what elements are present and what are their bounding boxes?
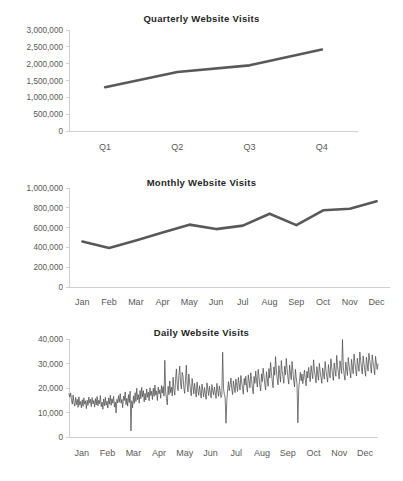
x-axis-tick-label: Jan	[75, 297, 90, 307]
x-axis-tick-label: Apr	[152, 448, 166, 458]
y-axis-tick-label: 0	[58, 433, 63, 442]
chart-monthly-website-visits: Monthly Website Visits 1,000,000800,0006…	[0, 163, 403, 320]
x-axis-tick-label: Jul	[237, 297, 249, 307]
x-axis-tick-label: Dec	[369, 297, 386, 307]
x-axis-tick-label: Jun	[203, 448, 218, 458]
x-axis-tick-label: Jul	[231, 448, 243, 458]
data-series-line	[105, 50, 322, 88]
x-axis-tick-label: Q3	[244, 142, 256, 152]
y-axis-tick-label: 2,500,000	[27, 43, 64, 52]
y-axis-tick-label: 30,000	[38, 360, 63, 369]
x-axis-tick-label: May	[181, 297, 199, 307]
x-axis-tick-label: Oct	[307, 448, 322, 458]
x-axis-tick-label: Aug	[262, 297, 278, 307]
x-axis-tick-label: Mar	[126, 448, 142, 458]
x-axis-tick-label: Q2	[171, 142, 183, 152]
data-series-line	[69, 339, 378, 430]
x-axis-tick-label: Feb	[100, 448, 116, 458]
y-axis-tick-label: 0	[58, 283, 63, 292]
x-axis-tick-label: Sep	[280, 448, 296, 458]
x-axis-tick-label: Q4	[316, 142, 328, 152]
y-axis-tick-label: 2,000,000	[27, 60, 64, 69]
y-axis-tick-label: 3,000,000	[27, 26, 64, 35]
x-axis-tick-label: Jan	[75, 448, 90, 458]
y-axis-tick-label: 1,500,000	[27, 77, 64, 86]
x-axis-tick-label: Apr	[156, 297, 170, 307]
y-axis-tick-label: 200,000	[33, 263, 63, 272]
data-series-line	[82, 201, 376, 248]
x-axis-tick-label: Q1	[99, 142, 111, 152]
x-axis-tick-label: Nov	[342, 297, 359, 307]
x-axis-tick-label: Jun	[209, 297, 224, 307]
chart-monthly-plot: 1,000,000800,000600,000400,000200,0000Ja…	[0, 163, 403, 320]
charts-sheet: Quarterly Website Visits 3,000,0002,500,…	[0, 0, 403, 481]
chart-daily-website-visits: Daily Website Visits 40,00030,00020,0001…	[0, 320, 403, 481]
y-axis-tick-label: 40,000	[38, 335, 63, 344]
x-axis-tick-label: Sep	[288, 297, 304, 307]
chart-quarterly-plot: 3,000,0002,500,0002,000,0001,500,0001,00…	[0, 0, 403, 163]
x-axis-tick-label: Nov	[331, 448, 348, 458]
x-axis-tick-label: Oct	[316, 297, 331, 307]
y-axis-tick-label: 800,000	[33, 204, 63, 213]
chart-daily-plot: 40,00030,00020,00010,0000JanFebMarAprMay…	[0, 320, 403, 481]
y-axis-tick-label: 1,000,000	[27, 93, 64, 102]
y-axis-tick-label: 600,000	[33, 224, 63, 233]
y-axis-tick-label: 1,000,000	[27, 184, 64, 193]
x-axis-tick-label: Feb	[101, 297, 117, 307]
x-axis-tick-label: May	[176, 448, 194, 458]
y-axis-tick-label: 0	[58, 127, 63, 136]
y-axis-tick-label: 500,000	[33, 110, 63, 119]
x-axis-tick-label: Mar	[128, 297, 144, 307]
y-axis-tick-label: 20,000	[38, 384, 63, 393]
x-axis-tick-label: Aug	[254, 448, 270, 458]
y-axis-tick-label: 400,000	[33, 243, 63, 252]
chart-quarterly-website-visits: Quarterly Website Visits 3,000,0002,500,…	[0, 0, 403, 163]
y-axis-tick-label: 10,000	[38, 409, 63, 418]
x-axis-tick-label: Dec	[357, 448, 374, 458]
